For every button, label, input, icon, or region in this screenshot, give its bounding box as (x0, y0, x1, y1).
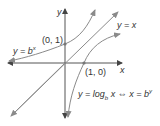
point-1-0 (82, 61, 85, 64)
exponential-label-text: y = b (13, 46, 33, 56)
logarithm-label-exponent: y (149, 88, 152, 94)
logarithm-label: y = logb x ⇔ x = by (78, 90, 152, 99)
point-label-0-1: (0, 1) (42, 36, 63, 45)
y-axis-label: y (57, 8, 62, 17)
identity-label: y = x (117, 21, 136, 30)
identity-line-lower (11, 63, 65, 116)
exponential-label: y = bx (13, 47, 36, 56)
exponential-label-exponent: x (33, 45, 36, 51)
logarithm-label-mid: x ⇔ x = b (108, 89, 149, 99)
point-0-1 (63, 42, 66, 45)
logarithm-curve (84, 34, 120, 63)
x-axis-label: x (120, 66, 125, 75)
point-label-1-0: (1, 0) (85, 68, 106, 77)
function-graph (0, 0, 160, 126)
logarithm-label-prefix: y = log (78, 89, 105, 99)
